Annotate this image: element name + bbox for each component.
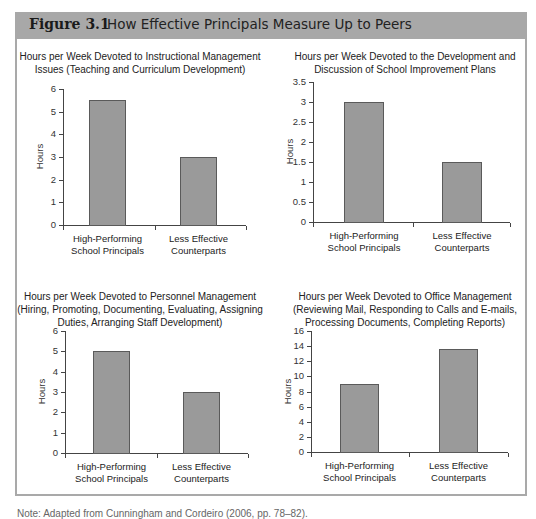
y-tick-label: 6: [32, 84, 56, 94]
y-axis-label: Hours: [34, 140, 45, 174]
x-category-label: Less Effective: [404, 460, 514, 472]
x-tick: [157, 454, 158, 458]
x-category-label: School Principals: [309, 242, 419, 254]
y-tick: [307, 331, 311, 332]
y-tick-label: 6: [34, 326, 58, 336]
x-category-label: Less Effective: [144, 233, 254, 245]
y-tick-label: 2: [280, 432, 304, 442]
y-tick-label: 12: [280, 356, 304, 366]
x-tick: [65, 454, 66, 458]
y-tick: [307, 437, 311, 438]
chart-title: Hours per Week Devoted to Instructional …: [0, 50, 290, 63]
x-tick: [413, 223, 414, 227]
x-category-label: Counterparts: [144, 245, 254, 257]
x-category-label: Counterparts: [147, 473, 257, 485]
x-tick: [248, 454, 249, 458]
bar: [180, 157, 217, 226]
y-tick-label: 14: [280, 341, 304, 351]
x-tick: [246, 226, 247, 230]
x-tick: [311, 453, 312, 457]
y-tick: [307, 407, 311, 408]
x-tick: [155, 226, 156, 230]
x-category-label: School Principals: [305, 472, 415, 484]
y-tick: [307, 346, 311, 347]
x-tick: [508, 453, 509, 457]
y-tick: [309, 182, 313, 183]
x-category-label: Less Effective: [147, 461, 257, 473]
y-tick: [59, 89, 63, 90]
y-tick: [307, 422, 311, 423]
y-axis: [311, 331, 312, 453]
y-tick-label: 2: [32, 175, 56, 185]
y-tick-label: 0: [280, 447, 304, 457]
figure-caption: Note: Adapted from Cunningham and Cordei…: [17, 508, 308, 519]
y-tick-label: 1: [32, 197, 56, 207]
y-tick: [309, 142, 313, 143]
x-tick: [63, 226, 64, 230]
y-tick: [61, 372, 65, 373]
y-tick: [61, 433, 65, 434]
chart-title: Issues (Teaching and Curriculum Developm…: [0, 63, 290, 76]
y-tick: [61, 392, 65, 393]
x-category-label: Less Effective: [407, 230, 517, 242]
x-category-label: High-Performing: [305, 460, 415, 472]
x-category-label: High-Performing: [309, 230, 419, 242]
chart-title: (Reviewing Mail, Responding to Calls and…: [255, 303, 536, 316]
y-tick: [307, 376, 311, 377]
bar: [442, 162, 482, 223]
x-tick: [510, 223, 511, 227]
x-tick: [313, 223, 314, 227]
bar: [344, 102, 384, 223]
y-axis-label: Hours: [284, 135, 295, 169]
y-tick-label: 1: [282, 177, 306, 187]
y-tick-label: 0.5: [282, 197, 306, 207]
y-tick: [307, 361, 311, 362]
y-tick-label: 0: [282, 217, 306, 227]
y-tick-label: 3: [282, 97, 306, 107]
x-tick: [409, 453, 410, 457]
y-tick-label: 0: [32, 220, 56, 230]
y-tick-label: 2: [34, 407, 58, 417]
y-tick-label: 2.5: [282, 117, 306, 127]
y-tick-label: 3.5: [282, 77, 306, 87]
bar: [93, 351, 130, 454]
y-tick-label: 16: [280, 326, 304, 336]
y-tick: [309, 162, 313, 163]
y-axis: [313, 82, 314, 223]
y-tick-label: 4: [280, 417, 304, 427]
figure-title: How Effective Principals Measure Up to P…: [107, 16, 412, 32]
figure-number: Figure 3.1: [29, 16, 110, 32]
y-tick: [61, 412, 65, 413]
chart-title: Hours per Week Devoted to Personnel Mana…: [0, 290, 290, 303]
y-tick-label: 5: [32, 107, 56, 117]
y-tick: [61, 351, 65, 352]
y-tick: [59, 112, 63, 113]
chart-title: Discussion of School Improvement Plans: [255, 63, 536, 76]
y-tick: [59, 180, 63, 181]
y-tick: [309, 82, 313, 83]
y-axis-label: Hours: [282, 374, 293, 408]
chart-title: Hours per Week Devoted to the Developmen…: [255, 50, 536, 63]
y-tick: [309, 102, 313, 103]
y-tick-label: 4: [32, 129, 56, 139]
x-category-label: Counterparts: [404, 472, 514, 484]
chart-title: (Hiring, Promoting, Documenting, Evaluat…: [0, 303, 290, 316]
bar: [340, 384, 379, 453]
y-tick: [309, 122, 313, 123]
y-tick-label: 0: [34, 448, 58, 458]
chart-title: Hours per Week Devoted to Office Managem…: [255, 290, 536, 303]
bar: [89, 100, 126, 226]
bar: [439, 349, 478, 453]
y-tick-label: 1: [34, 428, 58, 438]
y-axis-label: Hours: [36, 375, 47, 409]
x-category-label: Counterparts: [407, 242, 517, 254]
y-tick: [59, 202, 63, 203]
y-axis: [65, 331, 66, 454]
y-tick: [307, 392, 311, 393]
y-tick: [61, 331, 65, 332]
y-tick: [309, 202, 313, 203]
y-tick: [59, 157, 63, 158]
y-tick: [59, 134, 63, 135]
bar: [183, 392, 220, 454]
y-axis: [63, 89, 64, 226]
